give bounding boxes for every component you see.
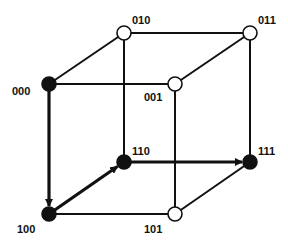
edge-100-110-arrow [49, 167, 117, 214]
node-011 [243, 26, 257, 40]
node-label-111: 111 [258, 145, 275, 157]
node-110 [117, 155, 131, 169]
node-000 [42, 77, 56, 91]
node-label-100: 100 [17, 223, 35, 235]
node-010 [117, 26, 131, 40]
node-label-101: 101 [144, 223, 162, 235]
edge-000-010 [49, 33, 124, 84]
edges-group [49, 33, 250, 214]
edge-001-011 [175, 33, 250, 84]
node-label-000: 000 [12, 85, 30, 97]
node-label-010: 010 [132, 14, 150, 26]
node-label-110: 110 [132, 145, 150, 157]
node-label-001: 001 [144, 91, 162, 103]
cube-diagram: 000010011001110111100101 [0, 0, 288, 242]
node-111 [243, 155, 257, 169]
node-label-011: 011 [258, 14, 276, 26]
node-001 [168, 77, 182, 91]
labels-group: 000010011001110111100101 [12, 14, 276, 235]
nodes-group [42, 26, 257, 221]
node-101 [168, 207, 182, 221]
edge-101-111 [175, 162, 250, 214]
node-100 [42, 207, 56, 221]
